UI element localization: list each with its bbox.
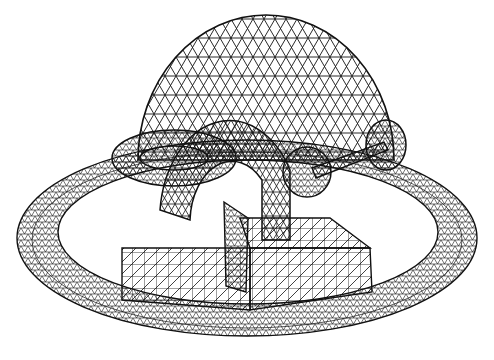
wireframe-scene [0,0,494,360]
pyramid [224,202,248,292]
